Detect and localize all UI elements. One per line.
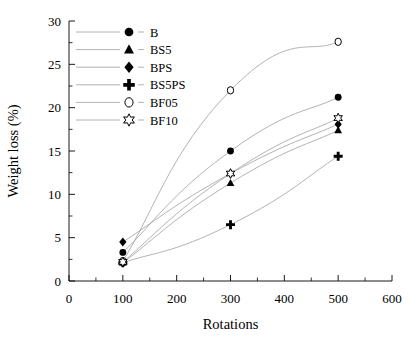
y-tick-label: 0 bbox=[55, 274, 62, 289]
legend-marker-open-circle bbox=[125, 98, 133, 107]
legend-label: B bbox=[150, 26, 158, 40]
artifact-text: • bbox=[0, 0, 4, 4]
data-point-marker bbox=[227, 148, 234, 155]
data-point-marker bbox=[335, 38, 341, 45]
data-point-marker bbox=[226, 169, 234, 179]
x-tick-label: 300 bbox=[221, 291, 241, 306]
x-tick-label: 200 bbox=[167, 291, 187, 306]
data-point-marker bbox=[227, 87, 233, 94]
chart-canvas: 0510152025300100200300400500600 BBS5BPSB… bbox=[0, 0, 411, 339]
legend-entry-bs5: BS5 bbox=[76, 43, 172, 57]
series-line bbox=[123, 118, 338, 262]
legend-label: BF05 bbox=[150, 96, 178, 110]
data-point-marker bbox=[334, 113, 342, 123]
y-tick-label: 25 bbox=[48, 57, 61, 72]
legend-marker-filled-circle bbox=[125, 28, 134, 37]
page-edge-artifact: • bbox=[0, 0, 411, 6]
x-tick-label: 400 bbox=[275, 291, 295, 306]
y-tick-label: 10 bbox=[48, 187, 61, 202]
markers-bs5 bbox=[119, 126, 342, 266]
data-point-marker bbox=[226, 220, 235, 229]
axes-group: 0510152025300100200300400500600 bbox=[48, 14, 402, 306]
y-tick-label: 20 bbox=[48, 100, 61, 115]
x-axis-title: Rotations bbox=[203, 316, 259, 332]
data-point-marker bbox=[227, 179, 235, 186]
x-tick-label: 0 bbox=[66, 291, 73, 306]
x-tick-label: 100 bbox=[113, 291, 133, 306]
legend-label: BPS bbox=[150, 61, 172, 75]
legend-marker-filled-triangle bbox=[124, 44, 134, 53]
x-tick-label: 600 bbox=[382, 291, 402, 306]
legend-label: BS5 bbox=[150, 43, 172, 57]
legend-label: BF10 bbox=[150, 114, 178, 128]
legend-marker-filled-diamond bbox=[124, 61, 133, 72]
legend-marker-open-star bbox=[124, 114, 135, 126]
data-point-marker bbox=[335, 94, 342, 101]
y-tick-label: 5 bbox=[55, 230, 62, 245]
legend-label: BS5PS bbox=[150, 78, 185, 92]
y-tick-label: 15 bbox=[48, 144, 61, 159]
y-axis-title: Weight loss (%) bbox=[5, 104, 22, 197]
data-point-marker bbox=[119, 238, 126, 247]
legend-entry-bs5ps: BS5PS bbox=[76, 78, 185, 92]
legend-entry-b: B bbox=[76, 26, 158, 40]
legend-marker-filled-plus bbox=[123, 79, 135, 91]
legend-entry-bf05: BF05 bbox=[76, 96, 178, 110]
x-tick-label: 500 bbox=[328, 291, 348, 306]
series-bf10 bbox=[123, 118, 338, 262]
data-point-marker bbox=[334, 152, 343, 161]
legend-entry-bps: BPS bbox=[76, 61, 172, 75]
weight-loss-chart-figure: • 0510152025300100200300400500600 BBS5BP… bbox=[0, 0, 411, 339]
legend-entry-bf10: BF10 bbox=[76, 114, 178, 128]
y-tick-label: 30 bbox=[48, 14, 61, 29]
data-point-marker bbox=[119, 249, 126, 256]
chart-legend: BBS5BPSBS5PSBF05BF10 bbox=[76, 26, 185, 128]
